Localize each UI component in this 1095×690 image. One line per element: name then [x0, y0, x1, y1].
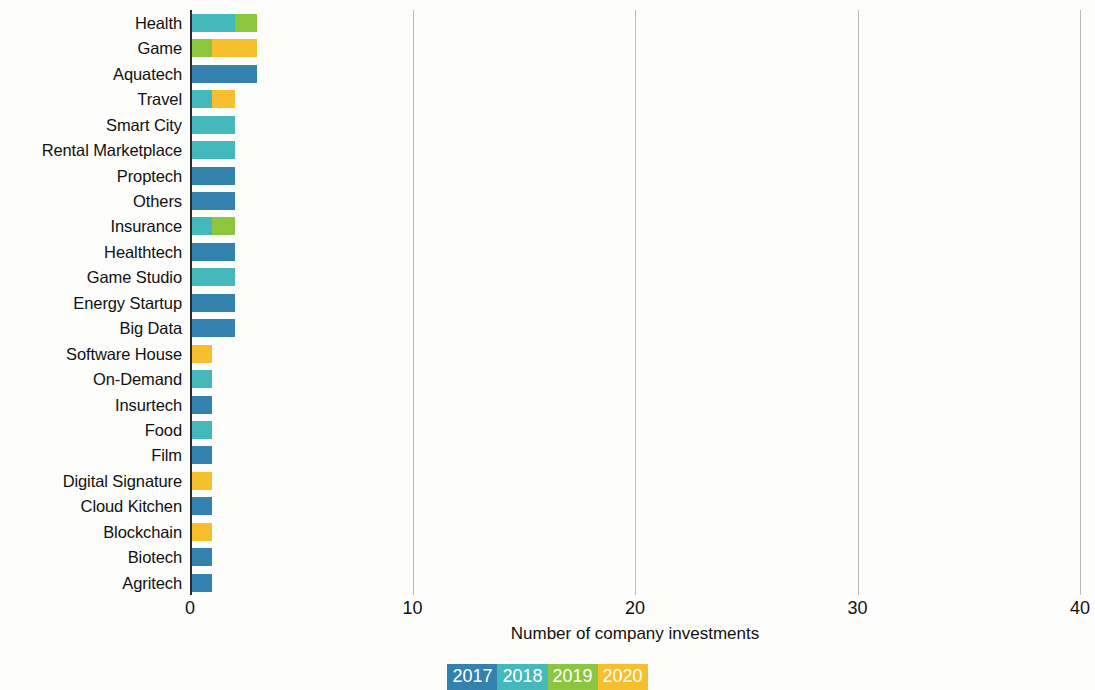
y-axis-label: Big Data — [0, 315, 182, 342]
bar-row — [190, 86, 1080, 113]
x-tick-label: 0 — [185, 598, 195, 619]
legend-item-2019[interactable]: 2019 — [548, 664, 598, 690]
y-axis-label: Insurance — [0, 213, 182, 240]
y-axis-label: Game Studio — [0, 264, 182, 291]
x-axis-title: Number of company investments — [190, 624, 1080, 644]
y-axis-category-labels: HealthGameAquatechTravelSmart CityRental… — [0, 10, 182, 595]
y-axis-label: Cloud Kitchen — [0, 493, 182, 520]
stacked-bar[interactable] — [190, 396, 212, 414]
y-axis-label: Biotech — [0, 544, 182, 571]
stacked-bar[interactable] — [190, 39, 257, 57]
stacked-bar[interactable] — [190, 523, 212, 541]
bar-segment-2017[interactable] — [190, 167, 235, 185]
gridline-40 — [1080, 10, 1081, 595]
stacked-bar[interactable] — [190, 167, 235, 185]
y-axis-label: On-Demand — [0, 366, 182, 393]
stacked-bar[interactable] — [190, 90, 235, 108]
bar-row — [190, 213, 1080, 240]
stacked-bar[interactable] — [190, 192, 235, 210]
bar-row — [190, 392, 1080, 419]
stacked-bar-chart: HealthGameAquatechTravelSmart CityRental… — [0, 0, 1095, 690]
y-axis-label: Food — [0, 417, 182, 444]
bar-row — [190, 544, 1080, 571]
bar-row — [190, 188, 1080, 215]
bar-segment-2018[interactable] — [190, 217, 212, 235]
stacked-bar[interactable] — [190, 446, 212, 464]
bar-row — [190, 10, 1080, 37]
stacked-bar[interactable] — [190, 14, 257, 32]
y-axis-label: Agritech — [0, 570, 182, 597]
x-tick-label: 20 — [625, 598, 645, 619]
y-axis-label: Aquatech — [0, 61, 182, 88]
bar-segment-2018[interactable] — [190, 370, 212, 388]
bar-segment-2018[interactable] — [190, 116, 235, 134]
bar-segment-2017[interactable] — [190, 319, 235, 337]
y-axis-label: Software House — [0, 341, 182, 368]
y-axis-label: Rental Marketplace — [0, 137, 182, 164]
bar-segment-2018[interactable] — [190, 14, 235, 32]
bar-row — [190, 35, 1080, 62]
bar-row — [190, 315, 1080, 342]
bar-segment-2017[interactable] — [190, 548, 212, 566]
bar-segment-2017[interactable] — [190, 446, 212, 464]
legend-item-2018[interactable]: 2018 — [497, 664, 547, 690]
stacked-bar[interactable] — [190, 65, 257, 83]
bar-row — [190, 366, 1080, 393]
bar-segment-2017[interactable] — [190, 396, 212, 414]
stacked-bar[interactable] — [190, 370, 212, 388]
plot-area — [190, 10, 1080, 595]
bar-segment-2020[interactable] — [190, 523, 212, 541]
stacked-bar[interactable] — [190, 116, 235, 134]
bar-segment-2017[interactable] — [190, 243, 235, 261]
stacked-bar[interactable] — [190, 345, 212, 363]
stacked-bar[interactable] — [190, 217, 235, 235]
bar-row — [190, 570, 1080, 597]
bar-row — [190, 239, 1080, 266]
bar-segment-2018[interactable] — [190, 90, 212, 108]
y-axis-label: Travel — [0, 86, 182, 113]
bar-segment-2019[interactable] — [212, 217, 234, 235]
y-axis-label: Digital Signature — [0, 468, 182, 495]
y-axis-label: Healthtech — [0, 239, 182, 266]
bar-segment-2020[interactable] — [212, 90, 234, 108]
bar-segment-2019[interactable] — [235, 14, 257, 32]
stacked-bar[interactable] — [190, 421, 212, 439]
bar-row — [190, 61, 1080, 88]
bar-segment-2017[interactable] — [190, 574, 212, 592]
bar-row — [190, 417, 1080, 444]
stacked-bar[interactable] — [190, 294, 235, 312]
y-axis-label: Smart City — [0, 112, 182, 139]
bar-row — [190, 112, 1080, 139]
legend-item-2020[interactable]: 2020 — [598, 664, 648, 690]
x-tick-label: 30 — [847, 598, 867, 619]
bar-segment-2020[interactable] — [190, 345, 212, 363]
stacked-bar[interactable] — [190, 141, 235, 159]
stacked-bar[interactable] — [190, 243, 235, 261]
stacked-bar[interactable] — [190, 497, 212, 515]
stacked-bar[interactable] — [190, 268, 235, 286]
y-axis-label: Others — [0, 188, 182, 215]
bar-segment-2017[interactable] — [190, 192, 235, 210]
bar-row — [190, 163, 1080, 190]
stacked-bar[interactable] — [190, 574, 212, 592]
bar-row — [190, 519, 1080, 546]
bar-segment-2018[interactable] — [190, 141, 235, 159]
stacked-bar[interactable] — [190, 472, 212, 490]
bar-segment-2020[interactable] — [212, 39, 257, 57]
bar-segment-2017[interactable] — [190, 497, 212, 515]
bar-segment-2017[interactable] — [190, 65, 257, 83]
bar-row — [190, 264, 1080, 291]
bar-row — [190, 442, 1080, 469]
legend-item-2017[interactable]: 2017 — [447, 664, 497, 690]
bar-segment-2020[interactable] — [190, 472, 212, 490]
bar-segment-2017[interactable] — [190, 294, 235, 312]
bar-segment-2018[interactable] — [190, 268, 235, 286]
y-axis-label: Game — [0, 35, 182, 62]
bar-segment-2019[interactable] — [190, 39, 212, 57]
stacked-bar[interactable] — [190, 548, 212, 566]
y-axis-label: Blockchain — [0, 519, 182, 546]
bar-row — [190, 341, 1080, 368]
bar-segment-2018[interactable] — [190, 421, 212, 439]
stacked-bar[interactable] — [190, 319, 235, 337]
x-tick-label: 40 — [1070, 598, 1090, 619]
